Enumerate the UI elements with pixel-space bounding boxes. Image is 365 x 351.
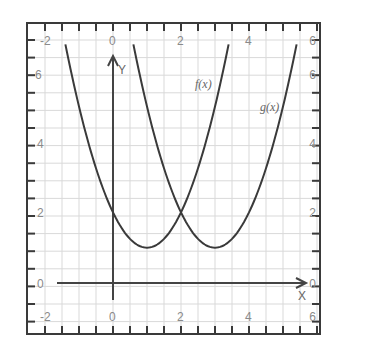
top-tick-label: 4 bbox=[245, 34, 252, 48]
bottom-tick-label: 2 bbox=[177, 310, 184, 324]
bottom-tick-label: 4 bbox=[245, 310, 252, 324]
left-tick-label: 6 bbox=[35, 68, 42, 82]
f-label: f(x) bbox=[195, 77, 212, 91]
y-axis-label: Y bbox=[118, 63, 126, 77]
top-tick-label: 0 bbox=[109, 34, 116, 48]
right-tick-label: 4 bbox=[309, 137, 316, 151]
right-tick-label: 6 bbox=[309, 34, 316, 48]
g-label: g(x) bbox=[260, 100, 279, 114]
right-tick-label: 0 bbox=[309, 277, 316, 291]
right-tick-label: 6 bbox=[309, 68, 316, 82]
right-tick-label: 2 bbox=[309, 206, 316, 220]
bottom-tick-label: 0 bbox=[109, 310, 116, 324]
left-tick-label: 2 bbox=[37, 206, 44, 220]
left-tick-label: 4 bbox=[37, 137, 44, 151]
function-graph: Y X f(x) g(x) -2 0 2 4 -2 0 2 4 6 4 2 0 … bbox=[0, 0, 365, 351]
top-tick-label: -2 bbox=[40, 34, 51, 48]
right-tick-label: 6 bbox=[309, 310, 316, 324]
x-axis-label: X bbox=[298, 289, 306, 303]
top-tick-label: 2 bbox=[177, 34, 184, 48]
bottom-tick-label: -2 bbox=[40, 310, 51, 324]
left-tick-label: 0 bbox=[37, 277, 44, 291]
